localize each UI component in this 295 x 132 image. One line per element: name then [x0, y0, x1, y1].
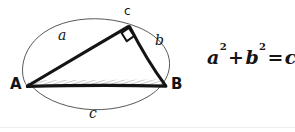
equation-exponent-a: 2: [220, 41, 227, 52]
side-label-c: c: [89, 106, 97, 120]
vertex-label-c-apex: c: [124, 5, 131, 17]
circumscribed-ellipse: [22, 19, 169, 110]
equation-plus-sign: +: [227, 46, 245, 68]
side-label-b: b: [155, 33, 164, 47]
equation-exponent-b: 2: [259, 41, 266, 52]
triangle-side-a: [28, 27, 129, 86]
pythagorean-equation: a2+b2=c2: [207, 46, 295, 68]
sketch-canvas: A B c a b c a2+b2=c2: [0, 0, 295, 132]
triangle-side-c: [27, 86, 165, 87]
right-triangle: [27, 27, 165, 87]
side-label-a: a: [58, 28, 66, 42]
equation-equals-sign: =: [266, 46, 284, 68]
equation-term-c: c: [285, 46, 295, 68]
equation-term-a: a: [207, 46, 220, 68]
vertex-label-a: A: [10, 77, 22, 92]
vertex-label-b: B: [171, 77, 182, 92]
equation-term-b: b: [245, 46, 259, 68]
